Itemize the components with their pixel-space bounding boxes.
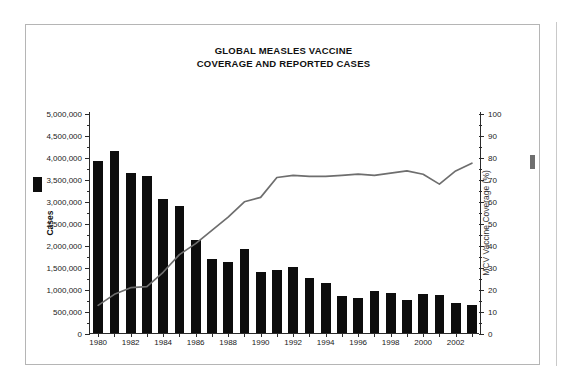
line-series-coverage [90, 112, 480, 334]
y-tick-label-4000000: 4,000,000 [46, 153, 82, 162]
chart-title-line-2: COVERAGE AND REPORTED CASES [26, 58, 541, 71]
y-tick-minor [87, 213, 90, 214]
x-tick [277, 333, 278, 337]
y-tick-label-4500000: 4,500,000 [46, 131, 82, 140]
x-tick [472, 333, 473, 337]
y-tick-label-1000000: 1,000,000 [46, 285, 82, 294]
x-tick [163, 333, 164, 337]
y-tick-label-2000000: 2,000,000 [46, 241, 82, 250]
x-tick [244, 333, 245, 337]
y-tick-minor [87, 301, 90, 302]
y-tick-major [85, 290, 90, 291]
x-tick-label-1984: 1984 [154, 338, 172, 347]
y-tick-minor [87, 147, 90, 148]
y2-tick-major [479, 334, 484, 335]
y2-tick-label-0: 0 [488, 330, 492, 339]
y-axis-title-cases: Cases [45, 210, 55, 235]
x-tick-label-1990: 1990 [252, 338, 270, 347]
y-tick-major [85, 114, 90, 115]
x-tick [212, 333, 213, 337]
x-tick-label-1994: 1994 [317, 338, 335, 347]
x-tick [179, 333, 180, 337]
y-tick-label-5000000: 5,000,000 [46, 109, 82, 118]
plot-area-wrapper: 0500,0001,000,0001,500,0002,000,0002,500… [89, 112, 479, 334]
y-tick-minor [87, 279, 90, 280]
x-tick [114, 333, 115, 337]
x-tick-label-1992: 1992 [284, 338, 302, 347]
y-tick-major [85, 224, 90, 225]
x-tick-label-1980: 1980 [89, 338, 107, 347]
x-tick [147, 333, 148, 337]
y-tick-label-1500000: 1,500,000 [46, 263, 82, 272]
page-edge-line [556, 22, 557, 366]
x-tick-label-2002: 2002 [447, 338, 465, 347]
x-tick-label-1998: 1998 [382, 338, 400, 347]
x-tick [131, 333, 132, 337]
y-tick-major [85, 334, 90, 335]
x-tick [407, 333, 408, 337]
x-tick-label-1986: 1986 [187, 338, 205, 347]
x-tick [261, 333, 262, 337]
y-tick-major [85, 268, 90, 269]
y-tick-minor [87, 323, 90, 324]
y-tick-label-3000000: 3,000,000 [46, 197, 82, 206]
y2-tick-label-80: 80 [488, 153, 497, 162]
y-tick-minor [87, 235, 90, 236]
x-tick-label-1988: 1988 [219, 338, 237, 347]
x-tick [374, 333, 375, 337]
y-tick-label-3500000: 3,500,000 [46, 175, 82, 184]
x-tick [391, 333, 392, 337]
y2-axis-title-coverage: MCV Vaccine Coverage (%) [481, 170, 491, 276]
y-tick-major [85, 136, 90, 137]
x-tick [358, 333, 359, 337]
y-tick-major [85, 180, 90, 181]
figure-frame: GLOBAL MEASLES VACCINE COVERAGE AND REPO… [25, 24, 540, 365]
x-tick [196, 333, 197, 337]
y2-tick-label-90: 90 [488, 131, 497, 140]
y2-tick-label-20: 20 [488, 285, 497, 294]
x-tick [456, 333, 457, 337]
y-tick-minor [87, 191, 90, 192]
x-tick-label-2000: 2000 [414, 338, 432, 347]
x-tick [439, 333, 440, 337]
chart-screenshot: GLOBAL MEASLES VACCINE COVERAGE AND REPO… [0, 0, 563, 386]
y-tick-major [85, 202, 90, 203]
y-tick-label-500000: 500,000 [53, 307, 82, 316]
y-tick-minor [87, 125, 90, 126]
x-tick-label-1996: 1996 [349, 338, 367, 347]
x-tick [293, 333, 294, 337]
y-tick-major [85, 158, 90, 159]
coverage-legend-swatch [530, 155, 535, 169]
x-tick [98, 333, 99, 337]
x-tick [423, 333, 424, 337]
y-tick-major [85, 246, 90, 247]
x-tick [326, 333, 327, 337]
y-tick-minor [87, 169, 90, 170]
x-tick [342, 333, 343, 337]
cases-legend-swatch [33, 177, 42, 192]
y2-tick-label-100: 100 [488, 109, 501, 118]
plot-area: 0500,0001,000,0001,500,0002,000,0002,500… [89, 112, 479, 334]
chart-title-line-1: GLOBAL MEASLES VACCINE [26, 45, 541, 58]
y-tick-minor [87, 257, 90, 258]
x-tick [228, 333, 229, 337]
x-tick-label-1982: 1982 [122, 338, 140, 347]
y2-tick-label-10: 10 [488, 307, 497, 316]
y-tick-label-0: 0 [78, 330, 82, 339]
y-tick-major [85, 312, 90, 313]
chart-title: GLOBAL MEASLES VACCINE COVERAGE AND REPO… [26, 45, 541, 70]
x-tick [309, 333, 310, 337]
